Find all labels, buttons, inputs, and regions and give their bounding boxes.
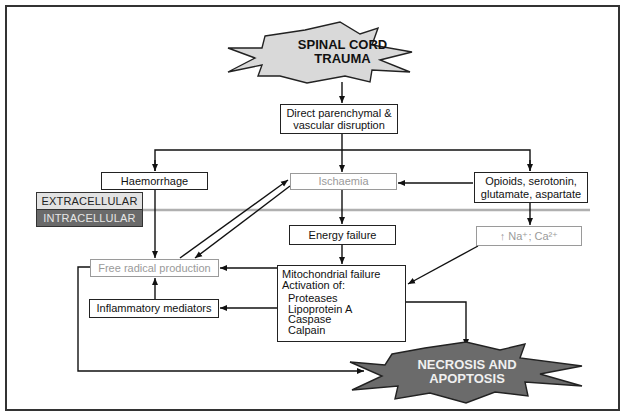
mitochondrial-failure-box: Mitochondrial failure Activation of: Pro…	[277, 265, 406, 342]
mito-item-caspase: Caspase	[282, 314, 401, 325]
inflammatory-mediators-box: Inflammatory mediators	[89, 299, 219, 318]
necrosis-label-line2: APOPTOSIS	[392, 372, 542, 386]
opioids-line2: glutamate, aspartate	[481, 188, 581, 201]
sodium-calcium-label: ↑ Na⁺; Ca²⁺	[500, 230, 558, 243]
sodium-calcium-box: ↑ Na⁺; Ca²⁺	[476, 226, 582, 246]
direct-line2: vascular disruption	[293, 119, 385, 132]
energy-failure-box: Energy failure	[289, 225, 396, 245]
necrosis-label-line1: NECROSIS AND	[392, 358, 542, 372]
trauma-label-line1: SPINAL CORD	[270, 38, 415, 52]
opioids-box: Opioids, serotonin, glutamate, aspartate	[474, 172, 588, 203]
direct-line1: Direct parenchymal &	[286, 107, 391, 120]
trauma-label: SPINAL CORD TRAUMA	[270, 38, 415, 66]
intracellular-text: INTRACELLULAR	[43, 212, 135, 224]
energy-failure-label: Energy failure	[309, 229, 377, 242]
extracellular-zone-label: EXTRACELLULAR	[36, 192, 143, 209]
intracellular-zone-label: INTRACELLULAR	[36, 209, 143, 227]
mito-item-calpain: Calpain	[282, 325, 401, 336]
haemorrhage-box: Haemorrhage	[101, 172, 208, 190]
trauma-label-line2: TRAUMA	[270, 52, 415, 66]
mitochondrial-line1: Mitochondrial failure	[282, 269, 401, 280]
free-radical-box: Free radical production	[90, 259, 219, 277]
necrosis-label: NECROSIS AND APOPTOSIS	[392, 358, 542, 386]
mitochondrial-line2: Activation of:	[282, 280, 401, 291]
ischaemia-box: Ischaemia	[290, 173, 397, 190]
inflammatory-mediators-label: Inflammatory mediators	[97, 302, 212, 315]
ischaemia-label: Ischaemia	[318, 175, 368, 188]
extracellular-text: EXTRACELLULAR	[41, 195, 137, 207]
mito-item-proteases: Proteases	[282, 293, 401, 304]
opioids-line1: Opioids, serotonin,	[485, 175, 577, 188]
free-radical-label: Free radical production	[98, 262, 211, 275]
haemorrhage-label: Haemorrhage	[121, 175, 188, 188]
direct-disruption-box: Direct parenchymal & vascular disruption	[280, 104, 398, 134]
